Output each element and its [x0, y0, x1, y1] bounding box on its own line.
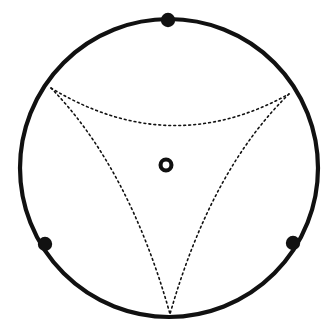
- boundary-dot-lower-right-vertex: [286, 236, 300, 250]
- boundary-dot-top-vertex: [161, 13, 175, 27]
- disk-diagram: [0, 0, 334, 333]
- figure-background: [0, 0, 334, 333]
- boundary-dot-lower-left-vertex: [38, 237, 52, 251]
- figure-container: Disk with three boundary marked points a…: [0, 0, 334, 333]
